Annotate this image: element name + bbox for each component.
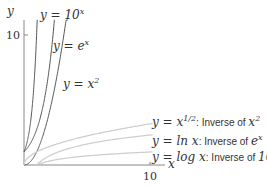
y-tick-label: 10 — [6, 29, 20, 42]
function-inverse-chart: y x 10 10 y = 10x y = ex y = x2 y = x1/2… — [0, 0, 267, 186]
label-ln-x: y = ln x: Inverse of ex — [151, 133, 263, 148]
x-tick-label: 10 — [143, 170, 157, 183]
label-e-pow-x: y = ex — [52, 38, 90, 53]
label-log-x: y = log x: Inverse of 10x — [151, 149, 267, 164]
y-axis-label: y — [6, 4, 14, 18]
label-x-squared: y = x2 — [62, 76, 99, 91]
label-10-pow-x: y = 10x — [39, 7, 85, 22]
label-sqrt-x: y = x1/2: Inverse of x2 — [151, 114, 260, 129]
